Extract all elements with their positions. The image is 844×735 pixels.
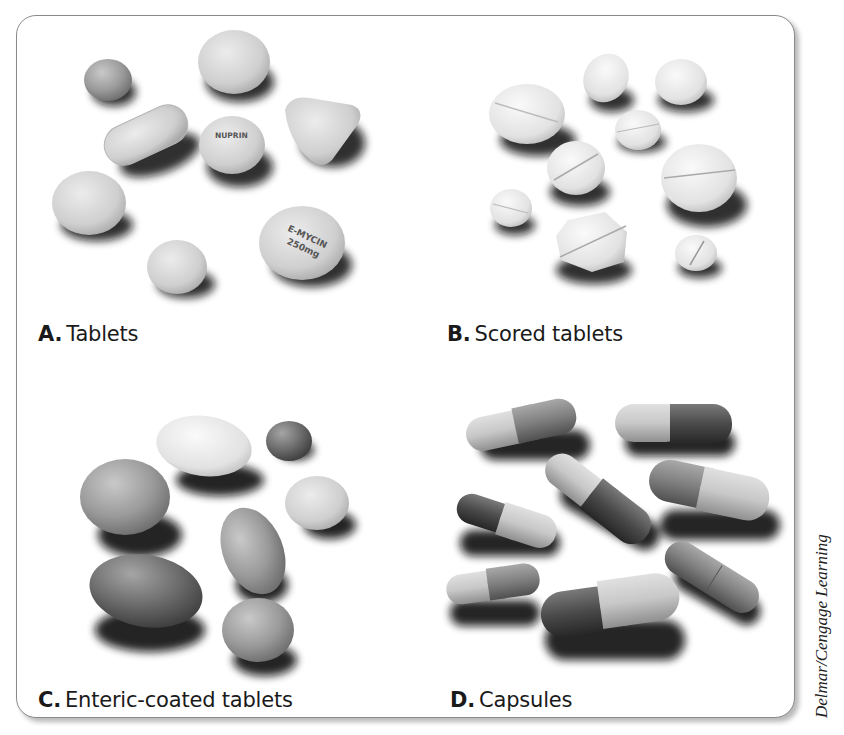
caption-b: B.Scored tablets bbox=[447, 322, 623, 346]
panel-d-capsules bbox=[444, 396, 780, 660]
caption-a-letter: A. bbox=[38, 322, 62, 346]
panel-c-enteric-tablets bbox=[80, 410, 356, 676]
photo-credit: Delmar/Cengage Learning bbox=[812, 534, 832, 718]
round-tablet-left bbox=[52, 171, 126, 235]
caption-c: C.Enteric-coated tablets bbox=[38, 688, 293, 712]
caption-b-letter: B. bbox=[447, 322, 471, 346]
caption-c-text: Enteric-coated tablets bbox=[65, 688, 293, 712]
nuprin-tablet bbox=[199, 116, 265, 174]
round-coated-tablet bbox=[80, 459, 170, 535]
caption-d: D.Capsules bbox=[450, 688, 572, 712]
round-tablet-large bbox=[198, 30, 270, 94]
caption-c-letter: C. bbox=[38, 688, 61, 712]
pill-illustrations: NUPRIN E-MYCIN 250mg bbox=[0, 0, 844, 735]
round-tablet-small bbox=[84, 59, 132, 101]
panel-b-scored-tablets bbox=[489, 45, 747, 284]
caption-a-text: Tablets bbox=[66, 322, 138, 346]
caption-d-letter: D. bbox=[450, 688, 475, 712]
panel-a-tablets: NUPRIN E-MYCIN 250mg bbox=[52, 30, 365, 298]
round-tablet-bottom bbox=[147, 240, 207, 294]
round-mid-coated bbox=[222, 598, 294, 662]
caption-a: A.Tablets bbox=[38, 322, 138, 346]
round-light-coated bbox=[285, 476, 349, 530]
caption-b-text: Scored tablets bbox=[475, 322, 623, 346]
imprint-nuprin: NUPRIN bbox=[215, 131, 248, 140]
small-dark-coated bbox=[266, 421, 312, 461]
caption-d-text: Capsules bbox=[479, 688, 572, 712]
